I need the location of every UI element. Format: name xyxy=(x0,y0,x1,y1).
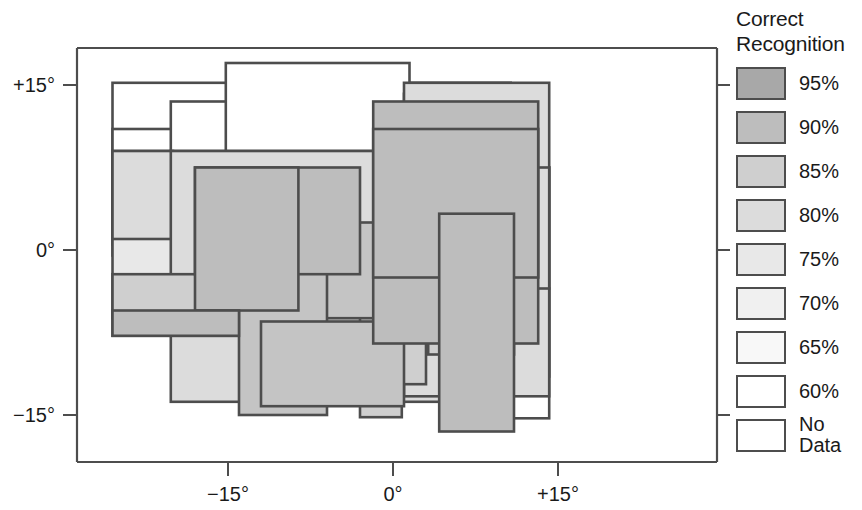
legend-label: 65% xyxy=(799,336,839,358)
legend-item: 80% xyxy=(732,193,862,237)
legend-item: 60% xyxy=(732,369,862,413)
rectangle-layer xyxy=(77,48,717,462)
legend-swatch xyxy=(736,243,786,276)
legend-swatch xyxy=(736,111,786,144)
receptive-field-rect xyxy=(195,168,298,311)
legend-rows: 95%90%85%80%75%70%65%60%No Data xyxy=(732,61,862,457)
legend-label: 85% xyxy=(799,160,839,182)
y-tick-label: 0° xyxy=(36,239,55,261)
legend-item: 95% xyxy=(732,61,862,105)
x-tick-label: −15° xyxy=(207,483,249,505)
x-tick-label: 0° xyxy=(383,483,402,505)
legend-swatch xyxy=(736,67,786,100)
receptive-field-rect xyxy=(113,311,240,336)
legend-swatch xyxy=(736,375,786,408)
x-tick-label: +15° xyxy=(537,483,579,505)
receptive-field-plot: +15°0°−15°−15°0°+15° xyxy=(0,0,730,510)
rectangles-clipped xyxy=(77,48,717,462)
legend-item: 90% xyxy=(732,105,862,149)
legend-item: 75% xyxy=(732,237,862,281)
legend-swatch xyxy=(736,419,786,452)
legend-label: 95% xyxy=(799,72,839,94)
legend-item: 70% xyxy=(732,281,862,325)
legend-item: No Data xyxy=(732,413,862,457)
legend-label: 90% xyxy=(799,116,839,138)
legend-item: 65% xyxy=(732,325,862,369)
legend-title: Correct Recognition xyxy=(736,6,862,56)
y-tick-label: −15° xyxy=(13,404,55,426)
legend-label: 75% xyxy=(799,248,839,270)
legend: Correct Recognition 95%90%85%80%75%70%65… xyxy=(732,6,862,506)
legend-label: 80% xyxy=(799,204,839,226)
legend-swatch xyxy=(736,155,786,188)
plot-area: +15°0°−15°−15°0°+15° xyxy=(0,0,730,510)
receptive-field-rect xyxy=(439,214,514,432)
figure-root: +15°0°−15°−15°0°+15° Correct Recognition… xyxy=(0,0,862,510)
legend-label: 60% xyxy=(799,380,839,402)
legend-swatch xyxy=(736,199,786,232)
legend-item: 85% xyxy=(732,149,862,193)
y-tick-label: +15° xyxy=(13,74,55,96)
legend-swatch xyxy=(736,287,786,320)
legend-swatch xyxy=(736,331,786,364)
legend-label: 70% xyxy=(799,292,839,314)
legend-label: No Data xyxy=(799,414,841,456)
